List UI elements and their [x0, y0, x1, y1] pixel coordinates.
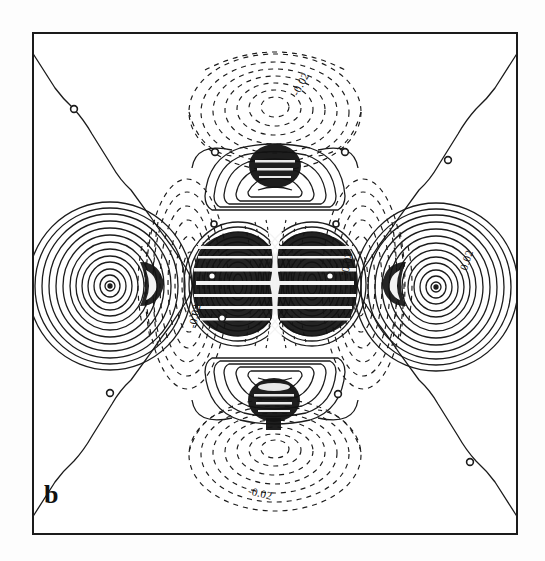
figure-container: -0.02 -0.02 0.02 -0.02 -0.02 b — [0, 0, 545, 561]
left-atom-rings — [28, 202, 192, 370]
contour-plot — [0, 0, 545, 561]
right-atom-rings — [354, 203, 518, 371]
panel-label: b — [44, 482, 58, 508]
